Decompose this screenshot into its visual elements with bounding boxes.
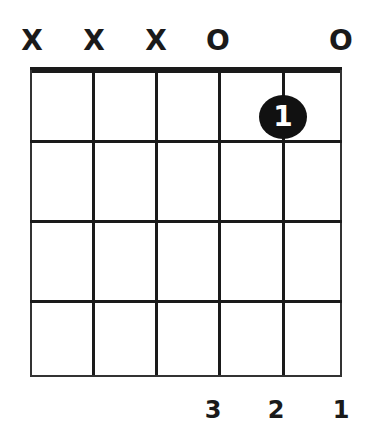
string-marker-6: O [326,26,356,56]
string-line-4 [218,70,221,377]
finger-number-string-4: 3 [201,396,225,424]
string-line-2 [92,70,95,377]
fret-line-4 [30,375,342,377]
finger-number-string-5: 2 [264,396,288,424]
finger-number-string-6: 1 [329,396,353,424]
string-marker-4: O [203,26,233,56]
string-marker-3: X [141,26,171,56]
fret-line-3 [30,300,342,303]
string-line-1 [30,70,32,377]
string-marker-1: X [17,26,47,56]
nut [30,67,342,73]
fret-line-1 [30,140,342,143]
string-line-6 [340,70,342,377]
string-line-3 [155,70,158,377]
string-marker-2: X [79,26,109,56]
fret-line-2 [30,220,342,223]
finger-dot-1: 1 [259,95,307,139]
